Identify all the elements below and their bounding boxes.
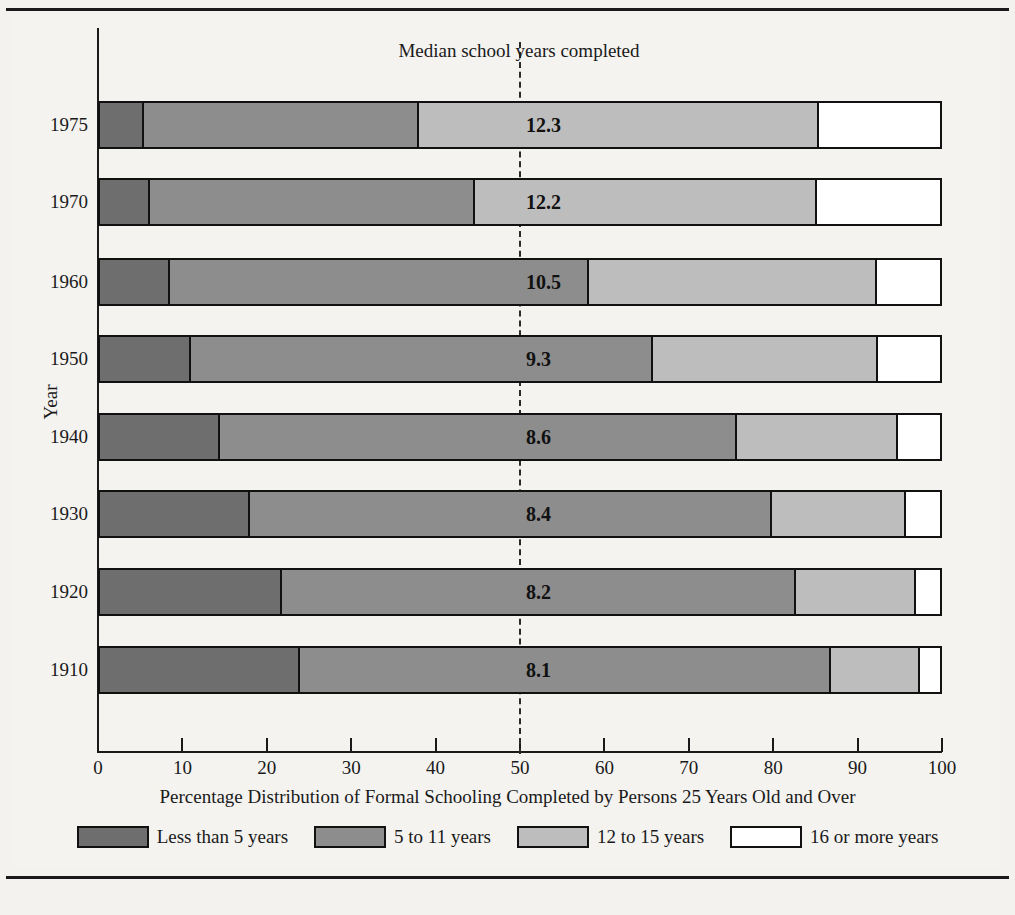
- bar-segment[interactable]: [878, 337, 940, 381]
- median-value-label: 8.6: [526, 413, 551, 461]
- bar-segment[interactable]: [916, 570, 940, 614]
- bar-segment[interactable]: [653, 337, 878, 381]
- page-canvas: 0102030405060708090100 Median school yea…: [0, 0, 1015, 915]
- stacked-bar-1950[interactable]: [98, 335, 942, 383]
- bar-segment[interactable]: [220, 415, 737, 459]
- legend-item[interactable]: 5 to 11 years: [314, 826, 491, 848]
- legend-swatch-icon: [314, 826, 386, 848]
- x-tick-0: [97, 738, 99, 752]
- bar-segment[interactable]: [300, 648, 831, 692]
- bar-segment[interactable]: [100, 415, 220, 459]
- x-tick-70: [688, 738, 690, 752]
- bar-segment[interactable]: [144, 103, 420, 147]
- bar-segment[interactable]: [737, 415, 898, 459]
- y-axis-title: Year: [40, 342, 62, 462]
- legend-swatch-icon: [517, 826, 589, 848]
- x-tick-label-90: 90: [828, 757, 888, 779]
- median-value-label: 9.3: [526, 335, 551, 383]
- x-tick-label-80: 80: [743, 757, 803, 779]
- x-tick-90: [857, 738, 859, 752]
- bar-segment[interactable]: [100, 492, 250, 536]
- x-tick-20: [266, 738, 268, 752]
- bar-segment[interactable]: [831, 648, 920, 692]
- x-tick-label-60: 60: [574, 757, 634, 779]
- legend-swatch-icon: [77, 826, 149, 848]
- bar-segment[interactable]: [817, 180, 940, 224]
- bar-segment[interactable]: [100, 648, 300, 692]
- median-caption: Median school years completed: [398, 40, 639, 62]
- stacked-bar-1910[interactable]: [98, 646, 942, 694]
- x-tick-label-40: 40: [406, 757, 466, 779]
- stacked-bar-1975[interactable]: [98, 101, 942, 149]
- y-tick-label-1960: 1960: [40, 258, 88, 306]
- legend-swatch-icon: [730, 826, 802, 848]
- median-value-label: 8.4: [526, 490, 551, 538]
- x-tick-label-50: 50: [490, 757, 550, 779]
- bar-segment[interactable]: [920, 648, 940, 692]
- x-tick-label-20: 20: [237, 757, 297, 779]
- stacked-bar-1940[interactable]: [98, 413, 942, 461]
- bar-segment[interactable]: [100, 103, 144, 147]
- stacked-bar-1960[interactable]: [98, 258, 942, 306]
- bar-segment[interactable]: [100, 260, 170, 304]
- legend-label: 5 to 11 years: [394, 826, 491, 848]
- legend-label: 12 to 15 years: [597, 826, 704, 848]
- x-axis-title: Percentage Distribution of Formal School…: [0, 786, 1015, 808]
- bar-segment[interactable]: [150, 180, 476, 224]
- x-tick-label-100: 100: [912, 757, 972, 779]
- x-tick-80: [772, 738, 774, 752]
- legend-item[interactable]: 12 to 15 years: [517, 826, 704, 848]
- median-value-label: 8.1: [526, 646, 551, 694]
- legend-item[interactable]: Less than 5 years: [77, 826, 288, 848]
- bar-segment[interactable]: [100, 337, 191, 381]
- median-value-label: 10.5: [526, 258, 561, 306]
- y-tick-label-1975: 1975: [40, 101, 88, 149]
- bar-segment[interactable]: [796, 570, 917, 614]
- y-tick-label-1930: 1930: [40, 490, 88, 538]
- median-value-label: 8.2: [526, 568, 551, 616]
- bar-segment[interactable]: [100, 570, 282, 614]
- median-value-label: 12.3: [526, 101, 561, 149]
- y-tick-label-1970: 1970: [40, 178, 88, 226]
- stacked-bar-chart: 0102030405060708090100 Median school yea…: [0, 0, 1015, 915]
- x-tick-label-0: 0: [68, 757, 128, 779]
- x-tick-40: [435, 738, 437, 752]
- y-tick-label-1920: 1920: [40, 568, 88, 616]
- bar-segment[interactable]: [100, 180, 150, 224]
- x-tick-label-10: 10: [152, 757, 212, 779]
- y-tick-label-1910: 1910: [40, 646, 88, 694]
- bar-segment[interactable]: [250, 492, 772, 536]
- bar-segment[interactable]: [589, 260, 877, 304]
- bar-segment[interactable]: [906, 492, 940, 536]
- bar-segment[interactable]: [898, 415, 940, 459]
- bar-segment[interactable]: [419, 103, 819, 147]
- legend-label: 16 or more years: [810, 826, 938, 848]
- median-value-label: 12.2: [526, 178, 561, 226]
- legend-label: Less than 5 years: [157, 826, 288, 848]
- x-tick-30: [350, 738, 352, 752]
- chart-legend: Less than 5 years5 to 11 years12 to 15 y…: [0, 826, 1015, 848]
- bar-segment[interactable]: [877, 260, 940, 304]
- x-tick-60: [603, 738, 605, 752]
- x-tick-label-70: 70: [659, 757, 719, 779]
- stacked-bar-1920[interactable]: [98, 568, 942, 616]
- bar-segment[interactable]: [191, 337, 653, 381]
- stacked-bar-1930[interactable]: [98, 490, 942, 538]
- bar-segment[interactable]: [772, 492, 906, 536]
- x-tick-10: [181, 738, 183, 752]
- x-tick-label-30: 30: [321, 757, 381, 779]
- stacked-bar-1970[interactable]: [98, 178, 942, 226]
- bar-segment[interactable]: [819, 103, 940, 147]
- x-tick-100: [941, 738, 943, 752]
- legend-item[interactable]: 16 or more years: [730, 826, 938, 848]
